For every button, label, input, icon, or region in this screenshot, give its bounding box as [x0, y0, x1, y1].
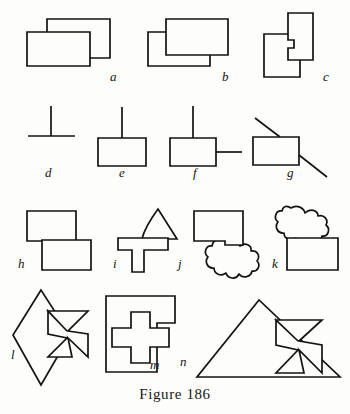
- maltese-cross-l-render: [48, 311, 88, 357]
- rectangle-f: [170, 138, 216, 166]
- panel-label-n: n: [180, 355, 187, 368]
- panel-d-drawing: [28, 106, 75, 136]
- panel-label-e: e: [119, 166, 125, 179]
- panel-label-h: h: [18, 257, 25, 270]
- panel-label-b: b: [222, 70, 229, 83]
- triangle-curved-i: [142, 209, 177, 239]
- panel-a-drawing: [27, 19, 110, 66]
- panel-label-i: i: [113, 257, 117, 270]
- t-shape-i: [118, 238, 168, 272]
- panel-label-l: l: [11, 348, 15, 361]
- panel-m-drawing: [106, 296, 175, 372]
- panel-label-c: c: [323, 70, 329, 83]
- panel-f-drawing: [170, 106, 242, 166]
- panel-b-drawing: [148, 19, 228, 66]
- figure-caption: Figure 186: [0, 386, 350, 403]
- panel-label-a: a: [110, 70, 117, 83]
- line-diagonal-g-upper: [255, 118, 280, 137]
- rectangle-c-front: [288, 13, 313, 60]
- rectangle-h-back: [27, 211, 76, 241]
- maltese-cross-n: [276, 320, 322, 373]
- figure-drawing-canvas: [0, 0, 350, 414]
- panel-c-drawing: [264, 13, 313, 77]
- panel-label-k: k: [272, 257, 278, 270]
- panel-label-m: m: [150, 358, 159, 371]
- panel-i-drawing: [118, 209, 177, 272]
- panel-label-d: d: [45, 166, 52, 179]
- panel-k-drawing: [275, 206, 338, 270]
- line-diagonal-g-lower: [299, 155, 327, 177]
- rectangle-k: [287, 238, 338, 270]
- rectangle-a-front: [27, 32, 90, 66]
- rectangle-b-front: [166, 19, 228, 55]
- panel-label-f: f: [193, 166, 197, 179]
- rectangle-j: [194, 211, 243, 245]
- panel-h-drawing: [27, 211, 91, 270]
- panel-j-drawing: [194, 211, 259, 278]
- figure-sheet: a b c d e f g h i j k l m n Figure 186: [0, 0, 350, 414]
- panel-label-g: g: [287, 166, 294, 179]
- rectangle-h-front: [42, 240, 91, 270]
- rectangle-g: [253, 137, 299, 165]
- rectangle-e: [98, 138, 146, 166]
- panel-l-drawing: [13, 290, 88, 385]
- panel-n-drawing: [197, 300, 340, 377]
- panel-e-drawing: [98, 107, 146, 166]
- panel-label-j: j: [178, 257, 182, 270]
